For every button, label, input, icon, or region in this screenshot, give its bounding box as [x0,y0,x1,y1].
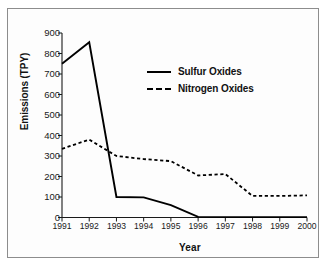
y-tick-label: 600 [34,90,60,100]
y-tick-label: 400 [34,131,60,141]
x-tick-label: 2000 [287,222,327,231]
y-tick-label: 300 [34,151,60,161]
chart-figure: 0100200300400500600700800900 19911992199… [0,0,333,273]
legend-label-nitrogen-oxides: Nitrogen Oxides [178,83,254,94]
y-axis-title: Emissions (TPY) [19,12,30,172]
y-tick-label: 200 [34,172,60,182]
legend-item-nitrogen-oxides: Nitrogen Oxides [147,80,297,97]
legend-item-sulfur-oxides: Sulfur Oxides [147,63,297,80]
chart-legend: Sulfur Oxides Nitrogen Oxides [147,63,297,97]
plot-area: 0100200300400500600700800900 19911992199… [0,0,333,273]
y-tick-label: 700 [34,69,60,79]
legend-swatch-solid-icon [147,67,171,77]
x-axis-tick-labels: 1991199219931994199519961997199819992000 [0,222,333,236]
y-tick-label: 500 [34,110,60,120]
legend-swatch-dashed-icon [147,84,171,94]
series-line-nitrogen-oxides [62,140,307,196]
y-tick-label: 900 [34,28,60,38]
y-tick-label: 800 [34,49,60,59]
y-tick-label: 100 [34,192,60,202]
x-axis-title: Year [60,242,320,253]
legend-label-sulfur-oxides: Sulfur Oxides [178,66,242,77]
